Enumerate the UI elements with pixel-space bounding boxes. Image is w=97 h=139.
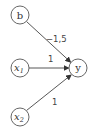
node-y-label: y	[74, 62, 81, 73]
perceptron-diagram: −1,5 1 1 b x1 x2 y	[0, 0, 97, 139]
node-b-label: b	[17, 10, 23, 21]
node-y: y	[69, 59, 87, 77]
node-x2: x2	[11, 108, 29, 126]
weight-label-x2: 1	[52, 97, 57, 107]
edge-x2-to-y	[27, 75, 72, 111]
node-x1: x1	[11, 59, 29, 77]
weight-label-x1: 1	[48, 54, 53, 64]
weight-label-b: −1,5	[46, 34, 67, 44]
node-b: b	[11, 6, 29, 24]
